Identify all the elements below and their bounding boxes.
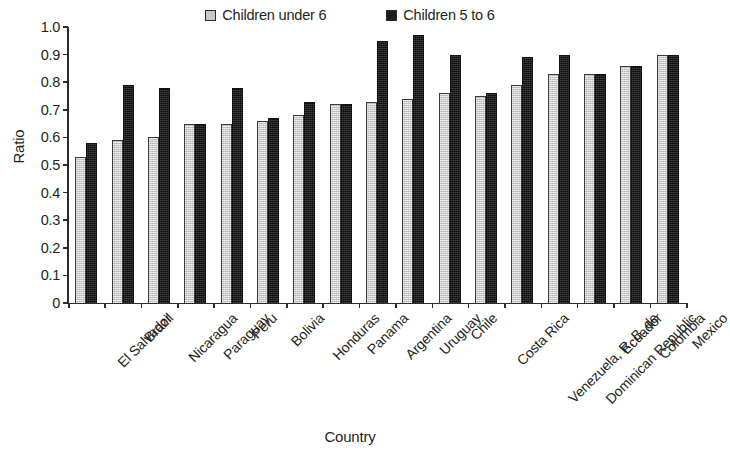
bar — [548, 74, 559, 303]
bar-group — [184, 27, 206, 303]
y-axis-tick-mark — [63, 54, 68, 56]
y-axis-tick: 0.7 — [41, 102, 68, 118]
x-axis-tick-mark — [541, 303, 543, 308]
y-axis-tick-mark — [63, 192, 68, 194]
legend-item-children-under-6: Children under 6 — [205, 7, 326, 23]
y-axis-tick-mark — [63, 81, 68, 83]
x-axis-tick-mark — [613, 303, 615, 308]
x-axis-category-label: Bolivia — [288, 310, 327, 349]
y-axis-tick-label: 0.3 — [41, 212, 60, 228]
bar-group — [257, 27, 279, 303]
y-axis-tick: 0.8 — [41, 74, 68, 90]
y-axis-tick-label: 0 — [52, 295, 60, 311]
y-axis-tick: 0.2 — [41, 240, 68, 256]
legend-label-children-5-to-6: Children 5 to 6 — [403, 7, 494, 23]
y-axis-tick-label: 0.4 — [41, 185, 60, 201]
bar — [184, 124, 195, 303]
y-axis-tick-label: 0.2 — [41, 240, 60, 256]
bar — [75, 157, 86, 303]
bar — [559, 55, 570, 303]
y-axis-tick: 1.0 — [41, 19, 68, 35]
y-axis-tick-label: 1.0 — [41, 19, 60, 35]
x-axis-tick-mark — [213, 303, 215, 308]
y-axis-title: Ratio — [10, 107, 27, 187]
y-axis-tick: 0.9 — [41, 47, 68, 63]
bar-group — [475, 27, 497, 303]
bar-group — [511, 27, 533, 303]
bar — [304, 102, 315, 303]
bar — [293, 115, 304, 303]
y-axis-tick: 0.4 — [41, 185, 68, 201]
bar — [595, 74, 606, 303]
bar — [475, 96, 486, 303]
legend-swatch-icon-children-under-6 — [205, 10, 216, 21]
bar — [450, 55, 461, 303]
bar-group — [548, 27, 570, 303]
legend-swatch-icon-children-5-to-6 — [386, 10, 397, 21]
bar-group — [620, 27, 642, 303]
x-axis-title: Country — [0, 428, 700, 445]
bar-group — [75, 27, 97, 303]
y-axis-tick: 0 — [52, 295, 68, 311]
bar-group — [366, 27, 388, 303]
y-axis-tick: 0.1 — [41, 267, 68, 283]
bar — [631, 66, 642, 303]
y-axis-tick-label: 0.9 — [41, 47, 60, 63]
bar — [268, 118, 279, 303]
bar-group — [293, 27, 315, 303]
x-axis-tick-mark — [286, 303, 288, 308]
bar — [402, 99, 413, 303]
bar — [486, 93, 497, 303]
x-axis-category-label: Costa Rica — [514, 310, 572, 368]
bar-group — [330, 27, 352, 303]
bar — [330, 104, 341, 303]
bar — [413, 35, 424, 303]
chart-legend: Children under 6 Children 5 to 6 — [0, 4, 700, 26]
y-axis-tick-mark — [63, 219, 68, 221]
y-axis-tick: 0.6 — [41, 129, 68, 145]
x-axis-tick-mark — [177, 303, 179, 308]
bar-group — [657, 27, 679, 303]
bar-group — [584, 27, 606, 303]
bar-group — [148, 27, 170, 303]
bar — [668, 55, 679, 303]
x-axis-tick-mark — [432, 303, 434, 308]
y-axis-tick-mark — [63, 164, 68, 166]
bar — [522, 57, 533, 303]
bar-group — [112, 27, 134, 303]
bar — [584, 74, 595, 303]
bar — [366, 102, 377, 303]
x-axis-tick-mark — [650, 303, 652, 308]
bar — [377, 41, 388, 303]
x-axis-tick-mark — [104, 303, 106, 308]
bar — [232, 88, 243, 303]
bar — [112, 140, 123, 303]
y-axis-tick-label: 0.5 — [41, 157, 60, 173]
x-axis-tick-mark — [68, 303, 70, 308]
bar-group — [221, 27, 243, 303]
bar-group — [439, 27, 461, 303]
y-axis-tick-mark — [63, 275, 68, 277]
x-axis-tick-mark — [504, 303, 506, 308]
y-axis-tick-mark — [63, 247, 68, 249]
bar — [123, 85, 134, 303]
y-axis-tick-mark — [63, 109, 68, 111]
x-axis-tick-mark — [141, 303, 143, 308]
y-axis-tick-label: 0.1 — [41, 267, 60, 283]
y-axis-tick-mark — [63, 26, 68, 28]
legend-label-children-under-6: Children under 6 — [222, 7, 326, 23]
bar — [148, 137, 159, 303]
y-axis-tick: 0.3 — [41, 212, 68, 228]
x-axis-tick-mark — [250, 303, 252, 308]
y-axis-tick-label: 0.6 — [41, 129, 60, 145]
bar — [195, 124, 206, 303]
legend-item-children-5-to-6: Children 5 to 6 — [386, 7, 494, 23]
y-axis-tick-label: 0.7 — [41, 102, 60, 118]
bar — [439, 93, 450, 303]
x-axis-tick-mark — [395, 303, 397, 308]
x-axis-tick-mark — [359, 303, 361, 308]
plot-area: 1.00.90.80.70.60.50.40.30.20.10 — [68, 27, 686, 303]
x-axis-tick-mark — [577, 303, 579, 308]
bar — [221, 124, 232, 303]
